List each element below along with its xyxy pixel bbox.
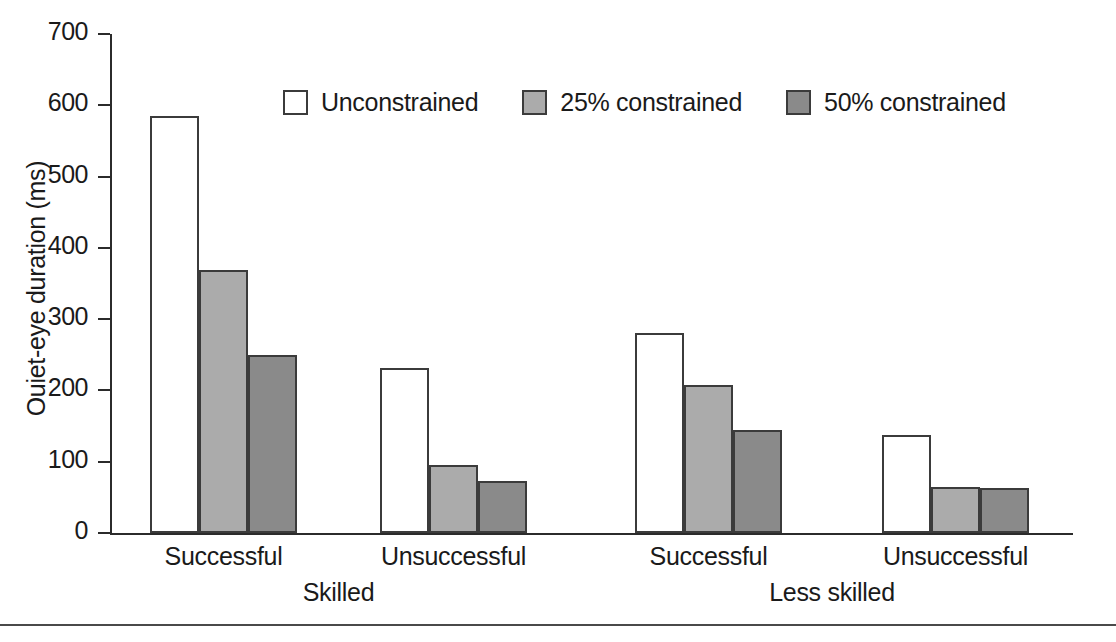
y-axis-tick-label: 500 [48,160,88,189]
y-axis-tick [98,33,110,35]
bar [150,116,199,533]
legend-item: 25% constrained [522,88,742,117]
bar [980,488,1029,533]
bar [380,368,429,533]
legend-label: 25% constrained [560,88,742,117]
bar-chart-figure: Ouiet-eye duration (ms) 0100200300400500… [0,0,1116,642]
x-axis-category-label: Unsuccessful [816,542,1096,571]
y-axis-tick [98,318,110,320]
y-axis-tick [98,461,110,463]
y-axis-tick-label: 700 [48,17,88,46]
y-axis-tick [98,532,110,534]
legend-swatch-icon [786,90,811,115]
y-axis-tick [98,247,110,249]
x-axis-group-label: Less skilled [692,578,972,607]
bar [478,481,527,533]
bar [429,465,478,533]
plot-area: Ouiet-eye duration (ms) 0100200300400500… [0,0,1116,642]
bar [199,270,248,533]
y-axis-tick-label: 0 [75,516,88,545]
bar [635,333,684,533]
bar [684,385,733,533]
y-axis-tick-label: 100 [48,445,88,474]
y-axis-tick [98,104,110,106]
bar [733,430,782,533]
y-axis-tick-label: 200 [48,373,88,402]
y-axis-line [110,34,112,534]
y-axis-tick-label: 400 [48,231,88,260]
bar [931,487,980,533]
legend-swatch-icon [522,90,547,115]
y-axis-tick-label: 300 [48,302,88,331]
legend-item: Unconstrained [283,88,478,117]
x-axis-line [110,533,1073,535]
y-axis-title: Ouiet-eye duration (ms) [22,79,51,499]
x-axis-group-label: Skilled [199,578,479,607]
y-axis-tick [98,389,110,391]
y-axis-tick [98,176,110,178]
y-axis-tick-label: 600 [48,88,88,117]
bottom-divider [0,624,1116,626]
legend-swatch-icon [283,90,308,115]
x-axis-category-label: Unsuccessful [314,542,594,571]
bar [248,355,297,533]
legend-item: 50% constrained [786,88,1006,117]
bar [882,435,931,533]
legend-label: Unconstrained [321,88,478,117]
legend-label: 50% constrained [824,88,1006,117]
x-axis-category-label: Successful [569,542,849,571]
legend: Unconstrained25% constrained50% constrai… [283,88,1006,117]
